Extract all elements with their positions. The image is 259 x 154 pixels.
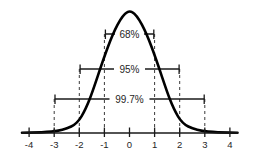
x-axis-tick-label-minus-1: -1 bbox=[100, 139, 108, 150]
normal-distribution-figure: 68% 95% 99.7% -4 -3 -2 -1 0 1 2 bbox=[0, 0, 259, 154]
x-axis-tick-labels-group: -4 -3 -2 -1 0 1 2 3 4 bbox=[25, 139, 233, 150]
annotation-label-95: 95% bbox=[119, 64, 139, 75]
x-axis-tick-label-plus-3: 3 bbox=[202, 139, 207, 150]
chart-canvas: 68% 95% 99.7% -4 -3 -2 -1 0 1 2 bbox=[0, 0, 259, 154]
x-axis-tick-label-minus-4: -4 bbox=[25, 139, 33, 150]
x-axis-tick-label-minus-2: -2 bbox=[75, 139, 83, 150]
annotation-label-68: 68% bbox=[119, 29, 139, 40]
x-axis-tick-label-plus-2: 2 bbox=[177, 139, 182, 150]
annotation-label-997: 99.7% bbox=[115, 94, 143, 105]
x-axis-tick-label-zero: 0 bbox=[127, 139, 132, 150]
droplines-group bbox=[54, 34, 205, 133]
x-axis-tick-label-plus-4: 4 bbox=[227, 139, 232, 150]
x-axis-ticks-group bbox=[29, 128, 230, 138]
x-axis-tick-label-plus-1: 1 bbox=[152, 139, 157, 150]
x-axis-tick-label-minus-3: -3 bbox=[50, 139, 58, 150]
